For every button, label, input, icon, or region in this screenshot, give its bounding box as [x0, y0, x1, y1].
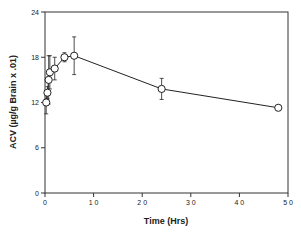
x-tick-label: 1 0 — [89, 199, 99, 206]
y-tick-label: 12 — [31, 99, 39, 106]
data-point — [43, 99, 50, 106]
y-axis-title: ACV (µg/g Brain x .01) — [8, 55, 18, 149]
series-line — [46, 56, 278, 108]
x-tick-label: 4 0 — [235, 199, 245, 206]
data-point — [45, 76, 52, 83]
data-point — [158, 85, 165, 92]
x-tick-label: 0 — [43, 199, 47, 206]
x-axis-title: Time (Hrs) — [144, 216, 188, 226]
chart: 06121824 01 02 03 04 05 0 Time (Hrs) ACV… — [0, 0, 301, 232]
x-tick-label: 2 0 — [137, 199, 147, 206]
x-tick-label: 3 0 — [186, 199, 196, 206]
data-point — [275, 104, 282, 111]
y-tick-label: 18 — [31, 54, 39, 61]
x-tick-label: 5 0 — [283, 199, 293, 206]
y-tick-label: 0 — [35, 190, 39, 197]
plot-frame — [45, 12, 288, 193]
y-tick-label: 6 — [35, 144, 39, 151]
data-point — [71, 52, 78, 59]
data-point — [44, 89, 51, 96]
y-tick-label: 24 — [31, 9, 39, 16]
data-point — [61, 54, 68, 61]
data-point — [51, 65, 58, 72]
